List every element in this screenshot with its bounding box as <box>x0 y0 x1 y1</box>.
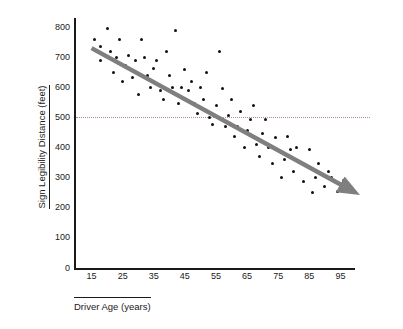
data-point <box>215 104 218 107</box>
data-point <box>162 98 165 101</box>
data-point <box>155 59 158 62</box>
data-point <box>106 27 109 30</box>
data-point <box>348 188 351 191</box>
data-point <box>149 86 152 89</box>
data-point <box>180 86 183 89</box>
data-point <box>302 180 305 183</box>
data-point <box>330 176 333 179</box>
x-tick-label: 75 <box>273 272 283 281</box>
data-point <box>286 135 289 138</box>
x-tick-label: 25 <box>118 272 128 281</box>
data-point <box>252 104 255 107</box>
data-point <box>308 148 311 151</box>
data-point <box>305 164 308 167</box>
data-point <box>258 155 261 158</box>
data-point <box>118 38 121 41</box>
data-point <box>121 80 124 83</box>
data-point <box>230 98 233 101</box>
data-point <box>99 45 102 48</box>
data-point <box>289 148 292 151</box>
data-point <box>124 64 127 67</box>
data-point <box>233 135 236 138</box>
data-point <box>115 56 118 59</box>
x-tick-label: 85 <box>304 272 314 281</box>
data-point <box>280 176 283 179</box>
data-point <box>218 50 221 53</box>
x-tick-label: 65 <box>242 272 252 281</box>
y-axis-title-wrap: Sign Legibility Distance (feet) <box>31 47 45 247</box>
data-point <box>174 29 177 32</box>
data-point <box>317 162 320 165</box>
x-tick-label: 15 <box>87 272 97 281</box>
data-point <box>112 71 115 74</box>
data-point <box>93 38 96 41</box>
data-point <box>171 86 174 89</box>
data-point <box>109 50 112 53</box>
data-point <box>159 89 162 92</box>
y-axis-title: Sign Legibility Distance (feet) <box>36 85 50 208</box>
data-point <box>211 123 214 126</box>
data-point <box>196 112 199 115</box>
data-point <box>314 176 317 179</box>
x-tick-label: 95 <box>335 272 345 281</box>
data-point <box>255 143 258 146</box>
data-point <box>246 129 249 132</box>
data-point <box>165 50 168 53</box>
x-axis-tick-labels: 152535455565758595 <box>0 272 403 286</box>
data-point <box>271 162 274 165</box>
data-point <box>99 59 102 62</box>
data-point <box>292 170 295 173</box>
data-point <box>187 89 190 92</box>
data-point <box>134 59 137 62</box>
data-point <box>221 87 224 90</box>
data-point <box>183 68 186 71</box>
data-point <box>243 146 246 149</box>
data-point <box>274 136 277 139</box>
data-point <box>190 80 193 83</box>
data-point <box>264 118 267 121</box>
data-point <box>208 116 211 119</box>
x-axis-line <box>74 268 355 270</box>
data-point <box>239 110 242 113</box>
x-tick-label: 45 <box>180 272 190 281</box>
data-point <box>127 54 130 57</box>
data-point <box>249 118 252 121</box>
reference-line-500 <box>76 117 370 118</box>
data-point <box>336 190 339 193</box>
data-point <box>177 102 180 105</box>
data-point <box>299 161 302 164</box>
x-axis-title: Driver Age (years) <box>74 297 151 312</box>
data-point <box>199 86 202 89</box>
data-point <box>131 76 134 79</box>
scatter-chart: 0100200300400500600700800 15253545556575… <box>0 0 403 329</box>
data-point <box>277 149 280 152</box>
x-tick-label: 35 <box>149 272 159 281</box>
data-point <box>168 74 171 77</box>
data-point <box>146 74 149 77</box>
data-point <box>152 67 155 70</box>
data-point <box>323 185 326 188</box>
data-point <box>193 102 196 105</box>
x-axis-title-wrap: Driver Age (years) <box>74 296 214 314</box>
data-point <box>202 98 205 101</box>
data-point <box>295 146 298 149</box>
data-point <box>283 158 286 161</box>
data-point <box>205 71 208 74</box>
data-point <box>140 38 143 41</box>
data-point <box>267 146 270 149</box>
data-point <box>137 93 140 96</box>
data-point <box>261 132 264 135</box>
data-point <box>224 125 227 128</box>
data-point <box>311 191 314 194</box>
y-axis-line <box>74 18 76 268</box>
data-point <box>327 170 330 173</box>
data-point <box>342 179 345 182</box>
data-point <box>143 56 146 59</box>
y-tick-label: 800 <box>40 23 70 32</box>
data-point <box>236 125 239 128</box>
x-tick-label: 55 <box>211 272 221 281</box>
